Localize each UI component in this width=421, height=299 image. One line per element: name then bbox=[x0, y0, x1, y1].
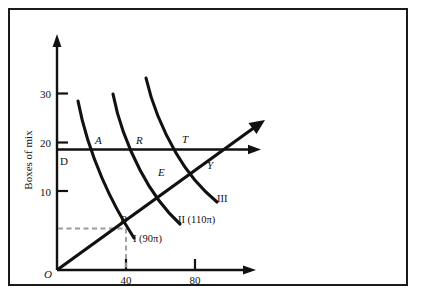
y-axis-title: Boxes of mix bbox=[22, 130, 34, 190]
curve-2-label: II (110π) bbox=[178, 214, 216, 226]
figure-container: 30 20 10 40 80 O Hours of labor Boxes of… bbox=[0, 0, 421, 299]
point-label-e: E bbox=[157, 166, 165, 178]
y-tick-label-30: 30 bbox=[40, 88, 52, 100]
point-label-y: Y bbox=[207, 159, 215, 171]
chart-canvas: 30 20 10 40 80 O Hours of labor Boxes of… bbox=[10, 10, 410, 288]
curve-1-label: I (90π) bbox=[133, 233, 162, 245]
point-label-t: T bbox=[182, 133, 189, 145]
y-axis bbox=[53, 34, 62, 270]
point-label-a: A bbox=[94, 134, 102, 146]
point-label-b: B bbox=[120, 213, 127, 225]
y-tick-label-20: 20 bbox=[40, 137, 52, 149]
x-tick-label-40: 40 bbox=[121, 274, 133, 286]
origin-label: O bbox=[44, 268, 52, 280]
x-axis bbox=[57, 265, 256, 274]
x-axis-ticks bbox=[126, 259, 195, 270]
demand-line-label: D bbox=[60, 155, 68, 167]
y-axis-ticks bbox=[57, 94, 68, 192]
point-label-r: R bbox=[135, 134, 143, 146]
y-tick-label-10: 10 bbox=[40, 186, 52, 198]
figure-frame: 30 20 10 40 80 O Hours of labor Boxes of… bbox=[8, 8, 408, 286]
curve-3-label: III bbox=[217, 193, 228, 204]
x-tick-label-80: 80 bbox=[190, 274, 202, 286]
